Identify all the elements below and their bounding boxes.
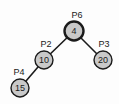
tree-node-value-P2: 10: [39, 55, 49, 65]
tree-node-value-P4: 15: [15, 83, 25, 93]
tree-node-value-P6: 4: [71, 26, 76, 36]
tree-diagram-svg: 4P610P220P315P4: [0, 0, 119, 104]
tree-node-label-P4: P4: [13, 67, 24, 77]
diagram-canvas: 4P610P220P315P4: [0, 0, 119, 104]
tree-node-label-P2: P2: [40, 39, 51, 49]
tree-node-label-P6: P6: [71, 10, 82, 20]
tree-node-value-P3: 20: [98, 55, 108, 65]
tree-node-label-P3: P3: [98, 39, 109, 49]
